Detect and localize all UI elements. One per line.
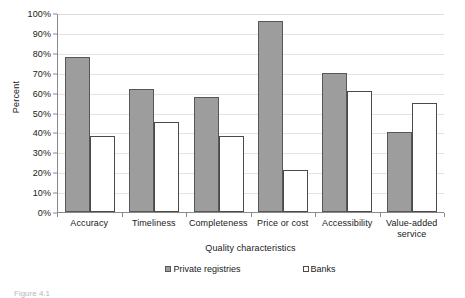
x-axis-category-labels: AccuracyTimelinessCompletenessPrice or c… [57, 218, 444, 240]
bar-banks[interactable] [283, 170, 308, 212]
x-category-label: Timeliness [122, 218, 187, 240]
x-tick-mark [315, 213, 316, 217]
bar-group [380, 14, 444, 212]
bar-banks[interactable] [90, 136, 115, 212]
bar-banks[interactable] [347, 91, 372, 212]
x-tick-mark [57, 213, 58, 217]
y-tick-label: 0% [38, 208, 51, 218]
x-category-label: Value-added service [380, 218, 445, 240]
bar-group [58, 14, 122, 212]
bar-group [187, 14, 251, 212]
figure-caption: Figure 4.1 [14, 289, 50, 298]
y-tick-label: 20% [33, 168, 51, 178]
x-category-label: Accessibility [315, 218, 380, 240]
y-tick-label: 30% [33, 148, 51, 158]
x-category-label: Completeness [186, 218, 251, 240]
bar-group [122, 14, 186, 212]
bar-private-registries[interactable] [322, 73, 347, 212]
legend-item[interactable]: Banks [303, 264, 336, 274]
bar-banks[interactable] [412, 103, 437, 212]
legend-label: Private registries [173, 264, 240, 274]
y-tick-label: 100% [28, 9, 51, 19]
bar-private-registries[interactable] [129, 89, 154, 212]
x-axis-title: Quality characteristics [57, 243, 444, 253]
y-axis-ticks: 100%90%80%70%60%50%40%30%20%10%0% [0, 14, 57, 213]
x-category-label: Accuracy [57, 218, 122, 240]
y-tick-label: 90% [33, 29, 51, 39]
y-tick-label: 40% [33, 128, 51, 138]
bar-groups [58, 14, 444, 212]
y-tick-label: 50% [33, 109, 51, 119]
x-category-label: Price or cost [251, 218, 316, 240]
bar-group [251, 14, 315, 212]
x-tick-mark [122, 213, 123, 217]
legend-item[interactable]: Private registries [165, 264, 240, 274]
legend-label: Banks [311, 264, 336, 274]
filled-square-icon [165, 266, 171, 272]
y-tick-label: 80% [33, 49, 51, 59]
bar-private-registries[interactable] [258, 21, 283, 212]
y-tick-label: 60% [33, 89, 51, 99]
bar-private-registries[interactable] [194, 97, 219, 212]
bar-group [315, 14, 379, 212]
bar-private-registries[interactable] [65, 57, 90, 212]
y-tick-label: 10% [33, 188, 51, 198]
x-tick-mark [251, 213, 252, 217]
plot-area [57, 14, 444, 213]
bar-banks[interactable] [154, 122, 179, 212]
y-tick-label: 70% [33, 69, 51, 79]
bar-chart-figure: Percent 100%90%80%70%60%50%40%30%20%10%0… [0, 0, 465, 298]
empty-square-icon [303, 266, 309, 272]
chart-legend: Private registriesBanks [57, 264, 444, 274]
x-tick-mark [444, 213, 445, 217]
x-tick-mark [186, 213, 187, 217]
x-tick-mark [380, 213, 381, 217]
bar-private-registries[interactable] [387, 132, 412, 212]
bar-banks[interactable] [219, 136, 244, 212]
